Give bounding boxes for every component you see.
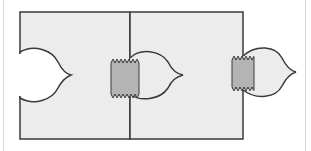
- panel-diagram: [0, 0, 311, 151]
- middle-tape: [111, 59, 139, 98]
- right-tape: [232, 56, 254, 91]
